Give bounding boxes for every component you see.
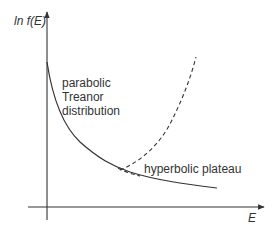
- parabolic-treanor-label: parabolic Treanor distribution: [62, 76, 120, 118]
- parabolic-dashed-curve: [120, 57, 196, 170]
- hyperbolic-plateau-label: hyperbolic plateau: [144, 162, 241, 176]
- plot-svg: [0, 0, 274, 232]
- parabolic-label-line-2: Treanor: [62, 90, 120, 104]
- y-axis-label: ln f(E): [14, 14, 46, 28]
- parabolic-label-line-1: parabolic: [62, 76, 120, 90]
- parabolic-label-line-3: distribution: [62, 104, 120, 118]
- x-axis-label: E: [248, 211, 256, 225]
- diagram-canvas: ln f(E) E parabolic Treanor distribution…: [0, 0, 274, 232]
